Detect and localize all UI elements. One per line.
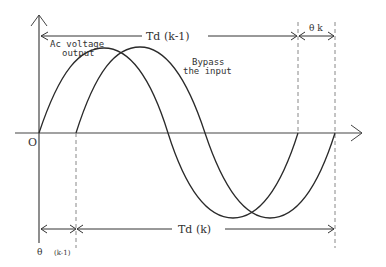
x-axis xyxy=(15,125,362,141)
theta-prev-subscript: (k-1) xyxy=(54,249,71,257)
theta-k-dimension xyxy=(299,32,334,40)
td-k-label: Td (k) xyxy=(178,223,211,236)
td-prev-label: Td (k-1) xyxy=(146,30,190,43)
theta-prev-symbol: θ xyxy=(37,247,42,257)
y-axis xyxy=(31,15,47,243)
theta-k-label: θ k xyxy=(309,23,323,33)
phase-diagram: Td (k-1) θ k Ac voltage output Bypass th… xyxy=(0,0,386,267)
ac-voltage-label-line2: output xyxy=(62,48,95,58)
bypass-label-line2: the input xyxy=(183,66,232,76)
origin-label: O xyxy=(28,136,37,149)
